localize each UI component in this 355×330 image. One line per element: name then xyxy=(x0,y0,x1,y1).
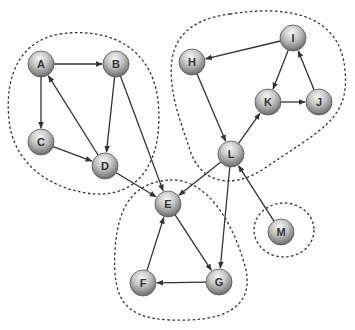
edge-I-to-K xyxy=(273,50,288,89)
node-label: A xyxy=(37,58,45,70)
node-F: F xyxy=(130,270,156,296)
edge-G-to-F xyxy=(157,282,206,283)
node-H: H xyxy=(179,49,205,75)
node-label: I xyxy=(291,32,294,44)
node-label: D xyxy=(101,160,109,172)
edge-E-to-G xyxy=(175,215,211,270)
node-label: E xyxy=(164,198,171,210)
node-J: J xyxy=(306,89,332,115)
node-E: E xyxy=(155,191,181,217)
edge-D-to-A xyxy=(48,76,98,155)
node-label: F xyxy=(140,277,147,289)
edge-B-to-D xyxy=(107,77,115,152)
edge-M-to-L xyxy=(239,166,274,221)
node-C: C xyxy=(28,129,54,155)
node-I: I xyxy=(280,25,306,51)
node-L: L xyxy=(218,141,244,167)
graph-diagram: ABCDEFGHIJKLM xyxy=(0,0,355,330)
node-G: G xyxy=(206,269,232,295)
edge-I-to-H xyxy=(206,41,281,59)
edge-C-to-D xyxy=(53,147,92,162)
edge-L-to-G xyxy=(220,167,229,268)
node-label: J xyxy=(316,96,322,108)
edge-J-to-I xyxy=(298,51,314,90)
node-label: L xyxy=(228,148,235,160)
edge-H-to-L xyxy=(197,74,225,141)
component-outlines xyxy=(8,11,345,320)
node-label: M xyxy=(276,226,285,238)
node-label: G xyxy=(215,276,224,288)
node-label: K xyxy=(264,96,272,108)
node-label: C xyxy=(37,136,45,148)
node-label: H xyxy=(188,56,196,68)
edge-F-to-E xyxy=(147,217,164,270)
node-D: D xyxy=(92,153,118,179)
node-K: K xyxy=(255,89,281,115)
node-label: B xyxy=(112,58,120,70)
node-A: A xyxy=(28,51,54,77)
edge-L-to-K xyxy=(239,113,260,143)
nodes: ABCDEFGHIJKLM xyxy=(28,25,332,296)
node-B: B xyxy=(103,51,129,77)
node-M: M xyxy=(268,219,294,245)
